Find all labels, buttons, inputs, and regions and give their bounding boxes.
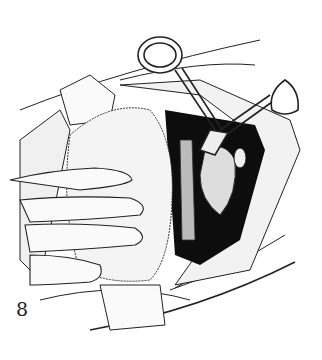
tissue-mass	[67, 108, 173, 281]
surgical-illustration	[0, 0, 322, 360]
figure-number: 8	[16, 298, 28, 320]
